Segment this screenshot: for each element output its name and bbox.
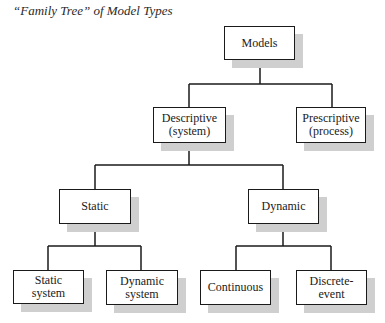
node-static: Static (59, 189, 131, 224)
node-models: Models (224, 26, 295, 60)
node-dynamic-system: Dynamic system (106, 270, 178, 305)
node-static-system: Static system (13, 270, 84, 304)
node-continuous: Continuous (200, 270, 271, 305)
node-discrete-event: Discrete- event (296, 270, 367, 305)
node-prescriptive: Prescriptive (process) (296, 107, 366, 143)
node-descriptive: Descriptive (system) (153, 107, 226, 143)
node-dynamic: Dynamic (248, 189, 319, 224)
